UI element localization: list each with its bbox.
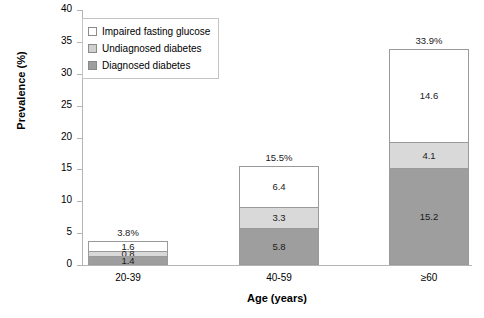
bar-segment: 4.1 bbox=[389, 142, 469, 168]
legend-item[interactable]: Undiagnosed diabetes bbox=[88, 40, 213, 57]
y-axis-tick-label: 40 bbox=[61, 3, 72, 14]
bar-segment-label: 14.6 bbox=[420, 91, 439, 101]
bar-segment-label: 5.8 bbox=[272, 242, 285, 252]
x-axis-tick-label: 40-59 bbox=[239, 272, 319, 283]
y-axis-tick-label: 35 bbox=[61, 35, 72, 46]
bar-segment-label: 4.1 bbox=[422, 151, 435, 161]
y-axis-tick-label: 20 bbox=[61, 131, 72, 142]
bar-segment: 14.6 bbox=[389, 49, 469, 142]
x-axis-title: Age (years) bbox=[82, 292, 472, 304]
bar-segment: 3.3 bbox=[239, 207, 319, 228]
stacked-bar-chart: Prevalence (%) 0510152025303540 1.60.81.… bbox=[0, 0, 484, 318]
y-axis-tick-label: 5 bbox=[66, 226, 72, 237]
legend-swatch-icon bbox=[88, 27, 97, 36]
bar-40-59: 6.43.35.8 bbox=[239, 166, 319, 265]
legend-swatch-icon bbox=[88, 61, 97, 70]
y-axis-tick-label: 15 bbox=[61, 162, 72, 173]
bar-≥60: 14.64.115.2 bbox=[389, 49, 469, 265]
bar-segment: 1.4 bbox=[88, 256, 168, 265]
legend-item-label: Impaired fasting glucose bbox=[102, 26, 210, 37]
y-axis-tick-label: 25 bbox=[61, 99, 72, 110]
y-axis-tick: 25 bbox=[0, 106, 82, 107]
bar-segment-label: 1.4 bbox=[121, 256, 134, 266]
bar-segment: 15.2 bbox=[389, 168, 469, 265]
y-axis-tick-label: 0 bbox=[66, 258, 72, 269]
bar-total-label: 33.9% bbox=[399, 35, 459, 46]
bar-segment-label: 6.4 bbox=[272, 182, 285, 192]
y-axis-tick: 0 bbox=[0, 265, 82, 266]
y-axis-tick-label: 10 bbox=[61, 194, 72, 205]
legend-item-label: Undiagnosed diabetes bbox=[102, 43, 202, 54]
y-axis-tick-label: 30 bbox=[61, 67, 72, 78]
x-axis-tick-label: 20-39 bbox=[88, 272, 168, 283]
y-axis-title: Prevalence (%) bbox=[10, 0, 32, 218]
bar-segment: 6.4 bbox=[239, 166, 319, 207]
y-axis-tick: 5 bbox=[0, 233, 82, 234]
bar-segment-label: 15.2 bbox=[420, 212, 439, 222]
bar-total-label: 3.8% bbox=[98, 227, 158, 238]
chart-legend: Impaired fasting glucoseUndiagnosed diab… bbox=[82, 18, 219, 79]
legend-item[interactable]: Diagnosed diabetes bbox=[88, 57, 213, 74]
y-axis-tick: 10 bbox=[0, 201, 82, 202]
legend-swatch-icon bbox=[88, 44, 97, 53]
y-axis-tick: 35 bbox=[0, 42, 82, 43]
x-axis-tick-label: ≥60 bbox=[389, 272, 469, 283]
bar-segment-label: 3.3 bbox=[272, 213, 285, 223]
y-axis-tick: 15 bbox=[0, 169, 82, 170]
y-axis-tick: 20 bbox=[0, 138, 82, 139]
legend-item-label: Diagnosed diabetes bbox=[102, 60, 190, 71]
bar-total-label: 15.5% bbox=[249, 152, 309, 163]
legend-item[interactable]: Impaired fasting glucose bbox=[88, 23, 213, 40]
bar-segment: 5.8 bbox=[239, 228, 319, 265]
y-axis-tick-mark bbox=[77, 265, 82, 266]
y-axis-tick: 30 bbox=[0, 74, 82, 75]
bar-20-39: 1.60.81.4 bbox=[88, 241, 168, 265]
x-axis-line bbox=[82, 265, 472, 266]
y-axis-tick: 40 bbox=[0, 10, 82, 11]
